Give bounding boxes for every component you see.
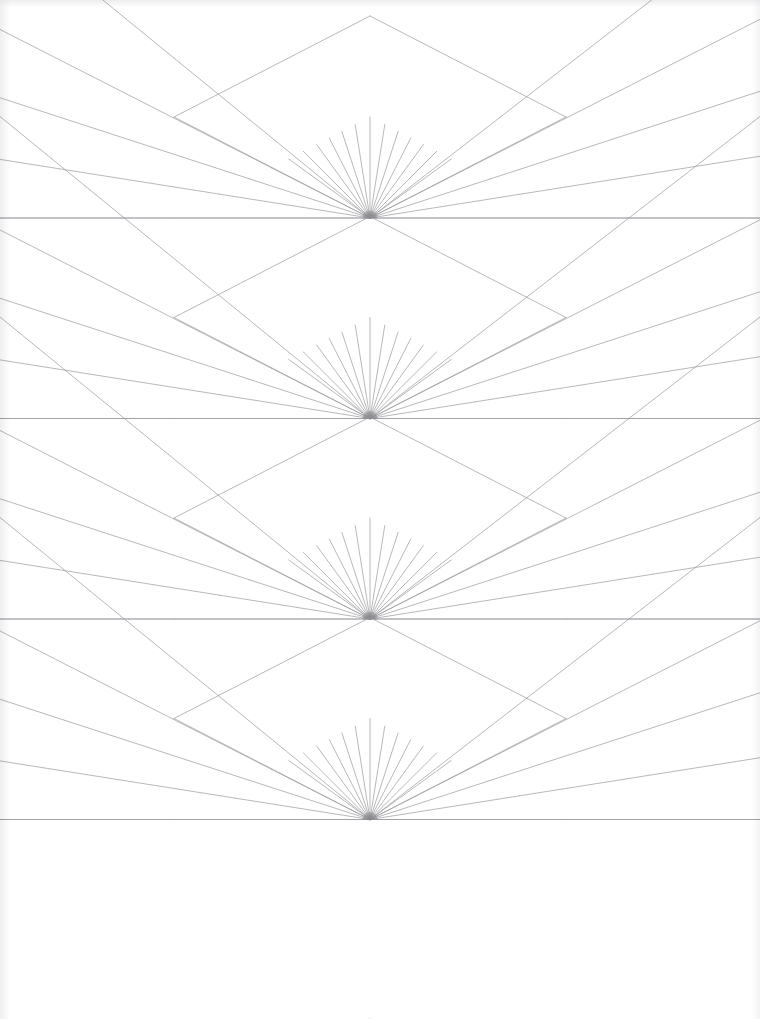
artboard-canvas (0, 0, 760, 1019)
fan-pattern-svg (0, 0, 760, 1019)
